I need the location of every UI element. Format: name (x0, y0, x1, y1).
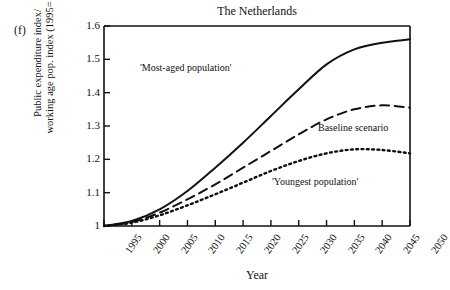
annotation-most-aged-population: 'Most-aged population' (140, 62, 232, 73)
y-tick-marks (104, 26, 110, 226)
annotation-youngest-population: 'Youngest population' (272, 176, 358, 187)
annotation-baseline-scenario: Baseline scenario (318, 122, 388, 133)
x-tick-marks (104, 220, 410, 226)
x-tick-label: 2050 (429, 232, 450, 256)
